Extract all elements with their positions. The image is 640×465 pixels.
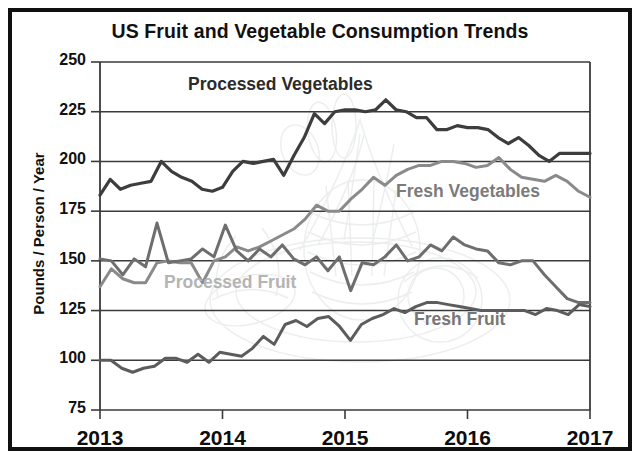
x-tick-label: 2013	[55, 426, 145, 450]
series-label-fresh-fruit: Fresh Fruit	[414, 309, 505, 330]
y-tick-label: 100	[40, 349, 86, 367]
plot-svg	[0, 0, 640, 465]
plot-area: 25022520017515012510075 2013201420152016…	[0, 0, 640, 465]
x-tick-label: 2014	[178, 426, 268, 450]
series-line-fresh-vegetables	[100, 157, 590, 286]
y-tick-label: 225	[40, 101, 86, 119]
chart-figure: US Fruit and Vegetable Consumption Trend…	[0, 0, 640, 465]
series-label-processed-vegetables: Processed Vegetables	[188, 74, 373, 95]
y-tick-label: 75	[40, 399, 86, 417]
x-tick-label: 2017	[545, 426, 635, 450]
y-tick-label: 200	[40, 150, 86, 168]
x-tick-label: 2016	[423, 426, 513, 450]
x-tick-label: 2015	[300, 426, 390, 450]
y-tick-label: 150	[40, 250, 86, 268]
y-tick-label: 125	[40, 300, 86, 318]
series-label-fresh-vegetables: Fresh Vegetables	[396, 181, 540, 202]
y-tick-label: 175	[40, 200, 86, 218]
series-label-processed-fruit: Processed Fruit	[164, 272, 296, 293]
axis-ticks	[91, 62, 590, 419]
y-tick-label: 250	[40, 51, 86, 69]
